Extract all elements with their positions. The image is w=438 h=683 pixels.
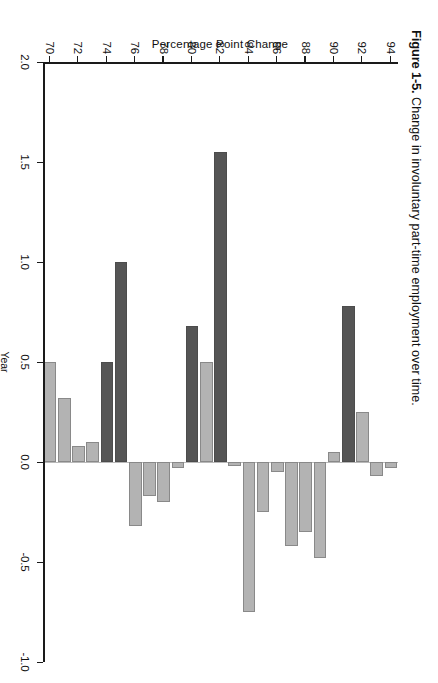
year-tick [390, 56, 391, 62]
year-tick-label: 70 [44, 20, 56, 54]
year-tick [361, 56, 362, 62]
bar [271, 462, 283, 472]
year-tick [304, 56, 305, 62]
year-tick-label: 72 [73, 20, 85, 54]
y-axis-title: Percentage Point Change [152, 38, 288, 50]
bar [299, 462, 311, 532]
year-tick [162, 56, 163, 62]
bar [86, 442, 98, 462]
bar [186, 326, 198, 462]
value-tick [37, 562, 43, 563]
figure-caption: Change in involuntary part-time employme… [409, 97, 423, 406]
year-tick-label: 90 [328, 20, 340, 54]
value-tick-label: -0.5 [19, 549, 31, 575]
value-tick-label: 0.5 [19, 349, 31, 375]
bar [243, 462, 255, 612]
year-tick [191, 56, 192, 62]
value-tick-label: 2.0 [19, 49, 31, 75]
bar [157, 462, 169, 502]
year-tick-label: 88 [300, 20, 312, 54]
value-tick [37, 262, 43, 263]
bar [129, 462, 141, 526]
bar [285, 462, 297, 546]
figure-title: Figure 1-5. Change in involuntary part-t… [409, 30, 424, 406]
bar [200, 362, 212, 462]
bar [257, 462, 269, 512]
figure-number: Figure 1-5. [409, 30, 424, 94]
bar [44, 362, 56, 462]
x-axis-title: Year [0, 351, 11, 372]
year-tick [77, 56, 78, 62]
value-tick-label: 0.0 [19, 449, 31, 475]
year-tick-label: 74 [101, 20, 113, 54]
value-tick [37, 162, 43, 163]
bar [143, 462, 155, 496]
bar [58, 398, 70, 462]
bar [356, 412, 368, 462]
bar [370, 462, 382, 476]
value-tick [37, 62, 43, 63]
bar [214, 152, 226, 462]
year-tick [333, 56, 334, 62]
value-tick [37, 662, 43, 663]
year-tick-label: 94 [385, 20, 397, 54]
year-tick [276, 56, 277, 62]
value-tick [37, 362, 43, 363]
zero-reference-line [43, 462, 398, 463]
category-axis-line [43, 62, 45, 662]
bar [172, 462, 184, 468]
bar [342, 306, 354, 462]
value-axis-line [43, 62, 398, 64]
chart-plot-area: 70727476788082848688909294 2.01.51.00.50… [43, 62, 398, 662]
value-tick-label: 1.0 [19, 249, 31, 275]
value-tick-label: -1.0 [19, 649, 31, 675]
bar [72, 446, 84, 462]
year-tick [106, 56, 107, 62]
bar [314, 462, 326, 558]
year-tick [219, 56, 220, 62]
bar [101, 362, 113, 462]
bar [228, 462, 240, 466]
year-tick [49, 56, 50, 62]
rotated-figure-container: Figure 1-5. Change in involuntary part-t… [0, 0, 438, 683]
year-tick [248, 56, 249, 62]
year-tick-label: 92 [357, 20, 369, 54]
bar [115, 262, 127, 462]
value-tick-label: 1.5 [19, 149, 31, 175]
bar [328, 452, 340, 462]
bar [385, 462, 397, 468]
year-tick [134, 56, 135, 62]
year-tick-label: 76 [129, 20, 141, 54]
value-tick [37, 462, 43, 463]
